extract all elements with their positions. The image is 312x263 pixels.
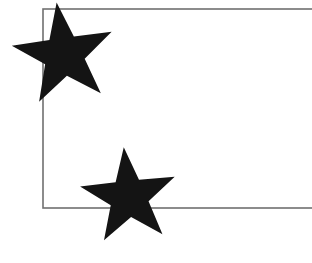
figure-svg — [0, 0, 312, 263]
figure-canvas — [0, 0, 312, 263]
